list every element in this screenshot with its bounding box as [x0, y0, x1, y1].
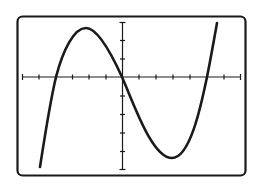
y-axis: [120, 22, 126, 170]
cubic-curve: [40, 23, 217, 167]
calculator-graph-screen: [0, 0, 257, 188]
